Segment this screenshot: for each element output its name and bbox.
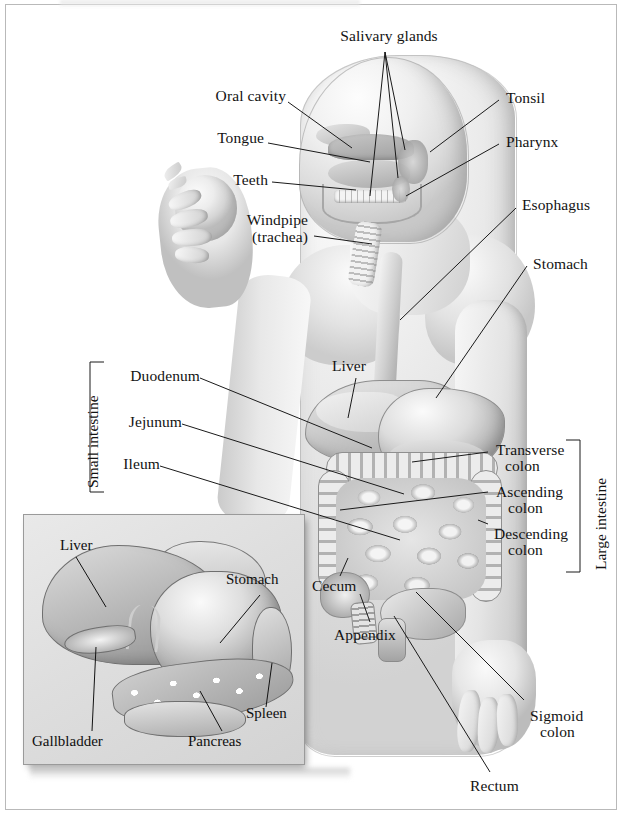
salivary-gland-organ-2 [392, 176, 410, 202]
label-tonsil: Tonsil [506, 90, 545, 107]
inset-detail-panel: Liver Stomach Gallbladder Pancreas Splee… [23, 514, 305, 765]
label-windpipe-trachea: (trachea) [180, 229, 308, 246]
label-teeth: Teeth [196, 172, 268, 189]
label-windpipe: Windpipe [180, 212, 308, 229]
label-salivary-glands: Salivary glands [333, 28, 445, 45]
label-liver: Liver [332, 358, 366, 375]
label-pharynx: Pharynx [506, 134, 558, 151]
inset-duodenum-organ [124, 701, 246, 737]
bracket-label-small-intestine: Small intestine [84, 395, 102, 488]
label-appendix: Appendix [334, 627, 396, 644]
inset-label-pancreas: Pancreas [188, 733, 241, 749]
inset-label-liver: Liver [60, 537, 92, 553]
label-descending-colon-2: colon [508, 542, 543, 559]
label-tongue: Tongue [180, 130, 264, 147]
label-rectum: Rectum [470, 778, 519, 795]
top-page-trim-artifact [60, 0, 360, 7]
label-cecum: Cecum [312, 578, 356, 595]
right-hand-finger-3 [496, 694, 519, 747]
inset-label-spleen: Spleen [246, 705, 287, 721]
label-ileum: Ileum [104, 456, 160, 473]
inset-label-stomach: Stomach [226, 571, 279, 587]
label-stomach: Stomach [533, 256, 588, 273]
label-jejunum: Jejunum [104, 414, 182, 431]
label-esophagus: Esophagus [522, 197, 590, 214]
digestive-system-figure: Salivary glands Oral cavity Tongue Teeth… [0, 0, 628, 828]
bracket-label-large-intestine: Large intestine [592, 478, 610, 570]
inset-label-gallbladder: Gallbladder [32, 733, 103, 749]
label-sigmoid-colon-2: colon [540, 724, 575, 741]
bottom-page-trim-artifact [30, 768, 350, 778]
label-ascending-colon-2: colon [508, 500, 543, 517]
label-oral-cavity: Oral cavity [178, 88, 286, 105]
label-duodenum: Duodenum [104, 368, 200, 385]
label-transverse-colon-2: colon [505, 458, 540, 475]
